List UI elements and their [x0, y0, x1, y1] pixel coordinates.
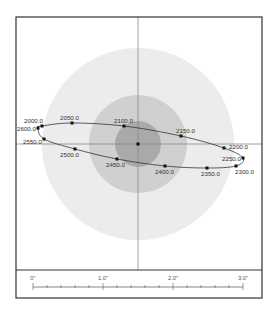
orbit-point-label: 2100.0 [114, 117, 133, 124]
orbit-point [223, 147, 226, 150]
scale-label: 3.0" [238, 275, 248, 281]
orbit-point [41, 125, 44, 128]
scale-label: 2.0" [168, 275, 178, 281]
orbit-point-label: 2300.0 [235, 168, 254, 175]
orbit-point [180, 135, 183, 138]
orbit-point-label: 2050.0 [60, 114, 79, 121]
orbit-point-label: 2600.0 [17, 125, 36, 132]
orbit-plot-figure: 2000.02050.02100.02150.02200.02250.02300… [0, 0, 272, 310]
scale-label: 0" [30, 275, 35, 281]
orbit-point [71, 122, 74, 125]
scale-label: 1.0" [98, 275, 108, 281]
orbit-point [123, 125, 126, 128]
orbit-point-label: 2250.0 [222, 155, 241, 162]
orbit-point-label: 2550.0 [23, 138, 42, 145]
center-point [137, 143, 140, 146]
plot-panel: 2000.02050.02100.02150.02200.02250.02300… [16, 17, 262, 270]
orbit-point-label: 2000.0 [24, 117, 43, 124]
orbit-point-label: 2450.0 [106, 161, 125, 168]
orbit-point-label: 2150.0 [176, 127, 195, 134]
orbit-point [242, 157, 245, 160]
orbit-point-label: 2500.0 [60, 151, 79, 158]
orbit-point [37, 127, 40, 130]
orbit-point-label: 2350.0 [201, 170, 220, 177]
orbit-point [43, 138, 46, 141]
scale-bar: 0"1.0"2.0"3.0" [30, 275, 248, 290]
orbit-point-label: 2400.0 [155, 168, 174, 175]
orbit-point-label: 2200.0 [229, 143, 248, 150]
